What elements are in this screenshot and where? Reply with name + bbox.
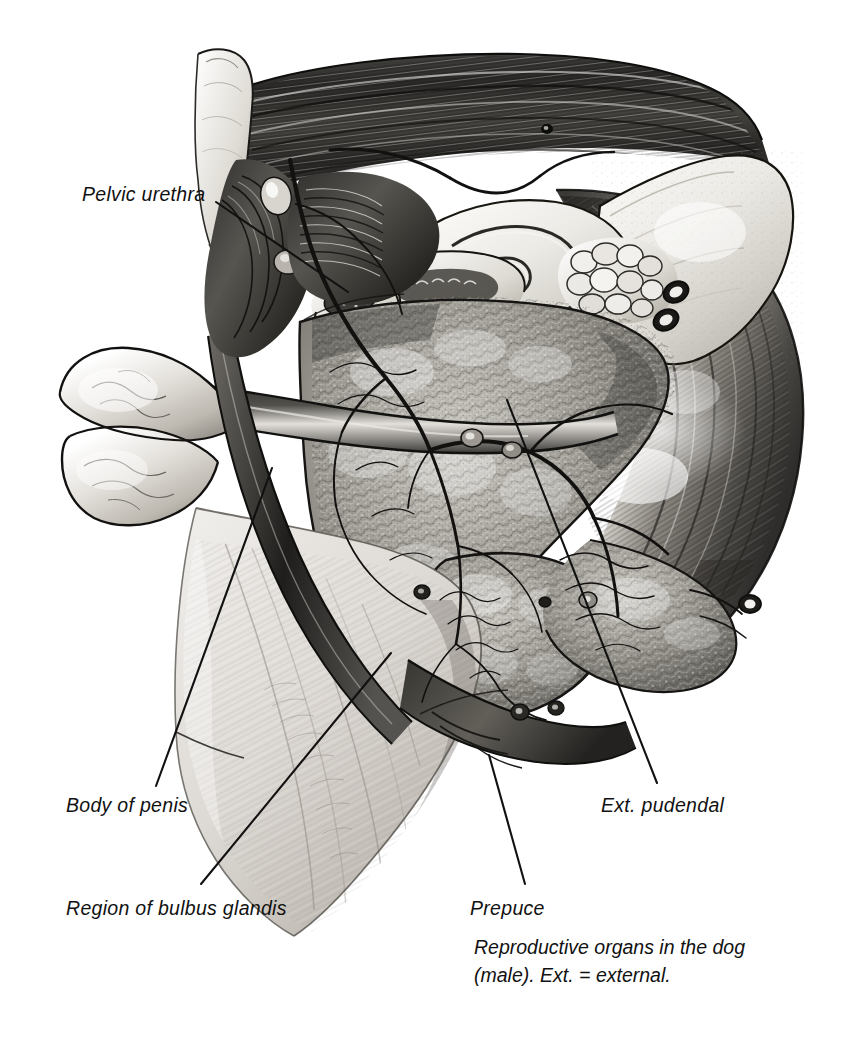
label-prepuce: Prepuce bbox=[470, 899, 545, 919]
anatomical-illustration: Pelvic urethra Body of penis Region of b… bbox=[0, 0, 845, 1052]
label-body-of-penis: Body of penis bbox=[66, 796, 188, 816]
caption-line-1: Reproductive organs in the dog bbox=[474, 934, 745, 962]
label-pelvic-urethra: Pelvic urethra bbox=[82, 185, 205, 205]
figure-caption: Reproductive organs in the dog (male). E… bbox=[474, 934, 745, 989]
illustration-canvas bbox=[0, 0, 845, 1052]
caption-line-2: (male). Ext. = external. bbox=[474, 962, 745, 990]
figure-page: Pelvic urethra Body of penis Region of b… bbox=[0, 0, 845, 1052]
label-region-of-bulbus-glandis: Region of bulbus glandis bbox=[66, 899, 287, 919]
label-ext-pudendal: Ext. pudendal bbox=[601, 796, 724, 816]
